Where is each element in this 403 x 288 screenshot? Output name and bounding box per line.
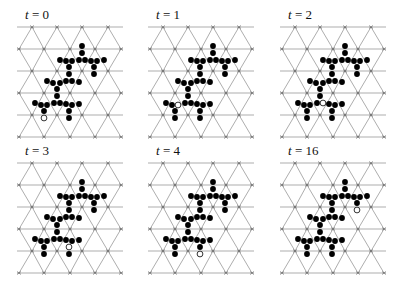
particle-dot: [79, 186, 85, 192]
particle-dot: [210, 186, 216, 192]
particle-dot: [197, 207, 203, 213]
particle-dot: [326, 214, 332, 220]
particle-dot: [194, 58, 200, 64]
particle-dot: [44, 238, 50, 244]
particle-dot: [69, 78, 75, 84]
particle-dot: [69, 214, 75, 220]
particle-dot: [188, 100, 194, 106]
particle-dot: [345, 193, 351, 199]
particle-dot: [200, 238, 206, 244]
particle-dot: [194, 214, 200, 220]
particle-dot: [354, 71, 360, 77]
time-label: t = 0: [25, 8, 49, 21]
particle-dot: [307, 102, 313, 108]
particle-dot: [82, 57, 88, 63]
particle-dot: [232, 57, 238, 63]
particle-dot: [301, 102, 307, 108]
particle-dot: [200, 58, 206, 64]
particle-dot: [66, 115, 72, 121]
particle-dot: [188, 80, 194, 86]
particle-dot: [63, 58, 69, 64]
particle-dot: [200, 102, 206, 108]
particle-dot: [57, 80, 63, 86]
particle-dot: [210, 50, 216, 56]
lattice-grid: [131, 136, 262, 276]
particle-dot: [200, 78, 206, 84]
particle-dot: [232, 193, 238, 199]
particle-dot: [197, 115, 203, 121]
particle-dot: [225, 58, 231, 64]
particle-dot: [76, 193, 82, 199]
particle-dot: [175, 214, 181, 220]
particle-dot: [38, 238, 44, 244]
lattice-grid: [0, 0, 131, 140]
particle-dot: [169, 238, 175, 244]
particle-dot: [320, 236, 326, 242]
particle-dot: [225, 194, 231, 200]
lattice-figure: t = 0 t = 1 t = 2 t = 3 t = 4 t = 16: [0, 0, 403, 288]
particle-dot: [307, 78, 313, 84]
time-label: t = 1: [156, 8, 180, 21]
particle-dot: [185, 86, 191, 92]
particle-dot: [329, 244, 335, 250]
particle-dot: [101, 193, 107, 199]
particle-dot: [307, 214, 313, 220]
lattice-grid: [0, 136, 131, 276]
particle-dot: [57, 57, 63, 63]
particle-dot: [197, 71, 203, 77]
particle-dot: [91, 71, 97, 77]
particle-dot: [332, 194, 338, 200]
panel-t4: t = 4: [131, 136, 262, 272]
particle-dot: [222, 207, 228, 213]
particle-dot: [213, 57, 219, 63]
particle-dot: [304, 251, 310, 257]
particle-dot: [197, 108, 203, 114]
particle-dot: [339, 57, 345, 63]
particle-dot: [304, 244, 310, 250]
particle-dot: [163, 236, 169, 242]
particle-dot: [342, 186, 348, 192]
particle-dot: [66, 64, 72, 70]
particle-dot: [41, 244, 47, 250]
particle-dot: [313, 80, 319, 86]
particle-dot: [54, 86, 60, 92]
particle-dot: [66, 71, 72, 77]
particle-dot: [345, 57, 351, 63]
particle-dot: [326, 58, 332, 64]
particle-dot: [188, 216, 194, 222]
panel-t3: t = 3: [0, 136, 131, 272]
particle-dot: [57, 193, 63, 199]
particle-dot: [207, 237, 213, 243]
particle-dot: [329, 200, 335, 206]
particle-dot: [200, 214, 206, 220]
particle-dot: [172, 115, 178, 121]
particle-dot: [194, 78, 200, 84]
particle-dot: [63, 101, 69, 107]
particle-dot: [339, 193, 345, 199]
particle-dot: [354, 200, 360, 206]
particle-dot: [175, 238, 181, 244]
particle-dot: [181, 216, 187, 222]
particle-dot: [181, 80, 187, 86]
particle-dot: [207, 215, 213, 221]
hollow-particle: [175, 102, 181, 108]
particle-dot: [44, 78, 50, 84]
particle-dot: [329, 64, 335, 70]
particle-dot: [304, 108, 310, 114]
particle-dot: [342, 179, 348, 185]
particle-dot: [44, 102, 50, 108]
particle-dot: [79, 43, 85, 49]
particle-dot: [364, 57, 370, 63]
particle-dot: [326, 237, 332, 243]
particle-dot: [326, 78, 332, 84]
hollow-particle: [41, 115, 47, 121]
particle-dot: [63, 194, 69, 200]
particle-dot: [332, 102, 338, 108]
particle-dot: [172, 244, 178, 250]
particle-dot: [88, 58, 94, 64]
particle-dot: [69, 194, 75, 200]
particle-dot: [66, 108, 72, 114]
particle-dot: [91, 207, 97, 213]
particle-dot: [320, 216, 326, 222]
particle-dot: [32, 100, 38, 106]
